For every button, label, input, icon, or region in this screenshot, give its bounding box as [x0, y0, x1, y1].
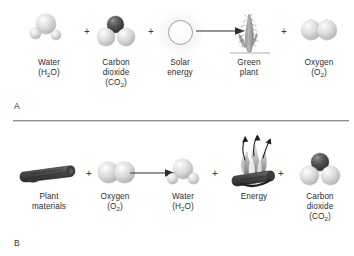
label-line: Green: [218, 58, 280, 68]
product-water-label: Water (H2O): [152, 192, 214, 212]
label-line: energy: [149, 68, 211, 78]
label-line: Energy: [218, 192, 290, 202]
sun-disc: [168, 20, 193, 45]
label-line: (O2): [82, 202, 148, 212]
label-line: Water: [152, 192, 214, 202]
product-energy-label: Energy: [218, 192, 290, 202]
carbon-dioxide-molecule-icon: [82, 10, 150, 58]
product-oxygen-label: Oxygen (O2): [288, 58, 350, 78]
product-oxygen: Oxygen (O2): [288, 10, 350, 78]
water-molecule-icon: [18, 10, 80, 58]
label-line: (H2O): [152, 202, 214, 212]
reactant-water-label: Water (H2O): [18, 58, 80, 78]
campfire-icon: [218, 128, 290, 192]
label-line: dioxide: [82, 68, 150, 78]
operator-plus: +: [212, 168, 218, 179]
oxygen-molecule-icon: [288, 10, 350, 58]
label-line: materials: [16, 202, 82, 212]
label-line: (H2O): [18, 68, 80, 78]
hydrogen-atom-sphere: [167, 173, 178, 184]
hydrogen-atom-sphere: [30, 28, 41, 39]
log-icon: [16, 156, 82, 192]
reactant-plant-materials-label: Plant materials: [16, 192, 82, 212]
oxygen-atom-sphere: [117, 28, 135, 46]
campfire-drawing: [218, 128, 290, 192]
label-line: (CO2): [82, 78, 150, 88]
panel-b-combustion: Plant materials + Oxygen (O2) Water (H: [0, 128, 354, 256]
reactant-oxygen: Oxygen (O2): [82, 154, 148, 212]
reactant-solar-energy: Solar energy: [149, 10, 211, 78]
product-carbon-dioxide: Carbon dioxide (CO2): [288, 150, 352, 222]
label-line: (O2): [288, 68, 350, 78]
label-line: Carbon: [288, 192, 352, 202]
hydrogen-atom-sphere: [188, 173, 199, 184]
label-line: (CO2): [288, 212, 352, 222]
label-line: Solar: [149, 58, 211, 68]
hydrogen-atom-sphere: [51, 30, 61, 40]
product-green-plant: Green plant: [218, 8, 280, 78]
product-carbon-dioxide-label: Carbon dioxide (CO2): [288, 192, 352, 222]
oxygen-atom-sphere: [317, 20, 337, 40]
oxygen-atom-sphere: [97, 28, 115, 46]
plant-icon: [218, 8, 280, 58]
label-line: plant: [218, 68, 280, 78]
product-water: Water (H2O): [152, 154, 214, 212]
label-line: Carbon: [82, 58, 150, 68]
reactant-plant-materials: Plant materials: [16, 156, 82, 212]
carbon-dioxide-molecule-icon: [288, 150, 352, 192]
panel-a-letter: A: [14, 101, 20, 111]
label-line: Oxygen: [82, 192, 148, 202]
reactant-oxygen-label: Oxygen (O2): [82, 192, 148, 212]
operator-plus: +: [281, 26, 287, 37]
reactant-carbon-dioxide-label: Carbon dioxide (CO2): [82, 58, 150, 88]
panel-a-photosynthesis: Water (H2O) + Carbon dioxide (CO2) + Sol…: [0, 0, 354, 128]
water-molecule-icon: [152, 154, 214, 192]
oxygen-atom-sphere: [321, 166, 340, 185]
label-line: Oxygen: [288, 58, 350, 68]
product-energy: Energy: [218, 128, 290, 202]
reactant-water: Water (H2O): [18, 10, 80, 78]
log-drawing: [16, 156, 82, 192]
label-line: Water: [18, 58, 80, 68]
label-line: dioxide: [288, 202, 352, 212]
reactant-carbon-dioxide: Carbon dioxide (CO2): [82, 10, 150, 88]
label-line: Plant: [16, 192, 82, 202]
panel-b-letter: B: [14, 238, 20, 248]
plant-drawing: [218, 8, 280, 58]
operator-plus: +: [278, 168, 284, 179]
panel-divider: [13, 120, 349, 122]
oxygen-atom-sphere: [300, 166, 319, 185]
reactant-solar-energy-label: Solar energy: [149, 58, 211, 78]
product-green-plant-label: Green plant: [218, 58, 280, 78]
